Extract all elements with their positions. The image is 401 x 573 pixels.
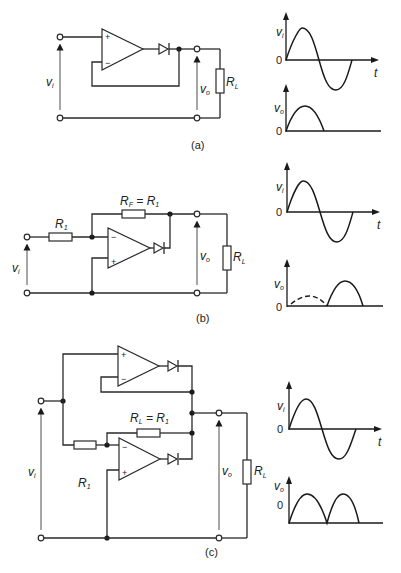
diode-a [159, 43, 169, 55]
svg-text:vo: vo [274, 101, 284, 115]
caption-b: (b) [196, 312, 209, 324]
input-terminal-b-bottom [24, 290, 30, 296]
load-resistor-c [243, 460, 251, 484]
vo-wave-a [286, 106, 324, 131]
panel-b: − + vi vo [12, 166, 383, 324]
svg-text:vo: vo [200, 249, 210, 263]
vo-wave-b [327, 281, 363, 306]
r1-resistor-c [74, 441, 96, 449]
waveforms-b: vi 0 t vo 0 [274, 166, 383, 313]
svg-text:+: + [122, 468, 127, 478]
input-terminal-a-top [57, 34, 63, 40]
waveforms-c: vi 0 t vo 0 [274, 385, 383, 524]
svg-text:vo: vo [222, 464, 232, 478]
svg-text:t: t [378, 435, 382, 449]
svg-text:t: t [377, 218, 381, 232]
vo-wave-b-dashed [291, 296, 327, 306]
output-terminal-b-bottom [194, 290, 200, 296]
rl-label-a: RL [226, 75, 239, 90]
svg-text:R1: R1 [55, 217, 68, 231]
svg-text:vi: vi [276, 180, 284, 194]
input-terminal-b-top [24, 234, 30, 240]
circuit-c: + − − + [28, 346, 267, 541]
svg-text:vi: vi [12, 261, 20, 275]
rf-resistor-b [122, 210, 145, 218]
diode-c-bottom [168, 453, 178, 465]
load-resistor-b [223, 246, 231, 270]
svg-text:0: 0 [277, 499, 283, 511]
rfb-resistor-c [137, 429, 160, 437]
svg-text:0: 0 [277, 423, 283, 435]
caption-c: (c) [205, 546, 218, 558]
output-terminal-c-top [216, 410, 222, 416]
svg-text:0: 0 [276, 125, 282, 137]
panel-a: + − [46, 16, 381, 151]
svg-text:−: − [111, 232, 116, 242]
svg-text:RL = R1: RL = R1 [130, 411, 169, 425]
svg-text:0: 0 [276, 54, 282, 66]
svg-text:+: + [111, 257, 116, 267]
svg-text:0: 0 [276, 301, 282, 313]
rectifier-figure: + − [0, 0, 401, 573]
svg-text:−: − [122, 442, 127, 452]
panel-c: + − − + [28, 346, 383, 558]
svg-text:+: + [121, 350, 126, 360]
svg-text:vi: vi [276, 25, 284, 39]
input-terminal-c-top [38, 398, 44, 404]
vo-wave-c [289, 494, 359, 523]
junction-b-ground [89, 290, 94, 295]
output-terminal-a-top [194, 46, 200, 52]
circuit-b: − + vi vo [12, 194, 246, 296]
output-terminal-c-bottom [216, 535, 222, 541]
input-terminal-a-bottom [57, 115, 63, 121]
output-terminal-b-top [194, 211, 200, 217]
caption-a: (a) [191, 139, 204, 151]
svg-text:R1: R1 [78, 476, 91, 490]
r1-resistor-b [49, 233, 72, 241]
svg-text:0: 0 [276, 206, 282, 218]
vi-wave-a [286, 28, 352, 90]
load-resistor-a [216, 69, 224, 93]
opamp-a-minus: − [105, 58, 110, 68]
diode-c-top [168, 360, 178, 372]
output-terminal-a-bottom [194, 115, 200, 121]
svg-text:vi: vi [277, 399, 285, 413]
vi-label-a: vi [46, 75, 54, 89]
svg-text:vo: vo [274, 277, 284, 291]
opamp-a-plus: + [105, 32, 110, 42]
svg-text:−: − [121, 374, 126, 384]
svg-text:t: t [374, 66, 378, 80]
waveforms-a: vi 0 t vo 0 [274, 16, 381, 137]
svg-text:RF = R1: RF = R1 [120, 194, 159, 208]
input-terminal-c-bottom [38, 535, 44, 541]
svg-text:vo: vo [274, 479, 284, 493]
svg-text:vi: vi [28, 465, 36, 479]
svg-text:RL: RL [254, 464, 267, 479]
diode-b [154, 242, 164, 254]
svg-text:RL: RL [233, 250, 246, 265]
circuit-a: + − [46, 29, 239, 121]
vo-label-a: vo [200, 82, 210, 96]
